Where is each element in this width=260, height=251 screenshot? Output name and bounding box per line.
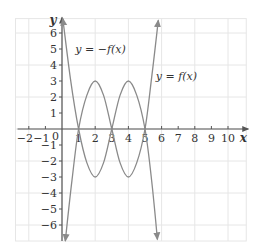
y-tick-label: 6 — [50, 27, 57, 40]
x-tick-label: 9 — [208, 132, 215, 145]
y-tick-label: −3 — [41, 171, 57, 184]
x-tick-label: 6 — [158, 132, 165, 145]
y-tick-label: −2 — [41, 155, 57, 168]
label-f: y = f(x) — [155, 70, 197, 83]
x-tick-label: 7 — [175, 132, 182, 145]
y-axis-label: y — [49, 13, 58, 27]
y-tick-label: 3 — [50, 75, 57, 88]
y-tick-label: 5 — [50, 43, 57, 56]
x-tick-label: 10 — [221, 132, 235, 145]
tick-labels: −2−112345678910−6−5−4−3−2−11234560xy — [17, 13, 248, 232]
x-tick-label: 4 — [125, 132, 132, 145]
y-tick-label: −4 — [41, 187, 57, 200]
y-tick-label: 4 — [50, 59, 57, 72]
origin-label: 0 — [52, 130, 59, 143]
coordinate-plane: −2−112345678910−6−5−4−3−2−11234560xy y =… — [0, 0, 260, 251]
x-tick-label: −2 — [17, 132, 33, 145]
y-tick-label: 1 — [50, 107, 57, 120]
y-tick-label: −6 — [41, 219, 57, 232]
label-neg-f: y = −f(x) — [74, 43, 126, 56]
graph-figure: −2−112345678910−6−5−4−3−2−11234560xy y =… — [0, 0, 260, 251]
y-tick-label: 2 — [50, 91, 57, 104]
y-tick-label: −5 — [41, 203, 57, 216]
x-tick-label: 8 — [191, 132, 198, 145]
x-axis-label: x — [239, 131, 248, 145]
curve-labels: y = f(x)y = −f(x) — [74, 43, 197, 83]
x-tick-label: 2 — [92, 132, 99, 145]
